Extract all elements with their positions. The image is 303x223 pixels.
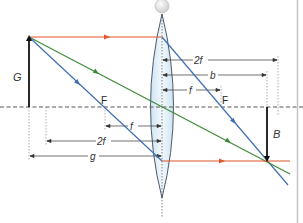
- focal-point-left-label: F: [101, 95, 107, 106]
- dim-left-f-label: f: [130, 121, 134, 132]
- dim-right-f-label: f: [189, 85, 193, 96]
- dim-right-2f-label: 2f: [193, 55, 204, 66]
- focal-point-right-label: F: [222, 95, 228, 106]
- lens-diagram: G B F F 2f b f f 2f g: [0, 0, 303, 223]
- dim-left-2f-label: 2f: [96, 136, 107, 147]
- object-label: G: [13, 71, 22, 83]
- lens-mount-knob: [155, 0, 169, 13]
- dimension-right: [163, 58, 277, 91]
- dim-left-g-label: g: [90, 151, 96, 162]
- dim-right-b-label: b: [210, 70, 216, 81]
- object-arrow: [26, 35, 32, 107]
- image-arrow: [264, 107, 270, 162]
- image-label: B: [273, 128, 280, 140]
